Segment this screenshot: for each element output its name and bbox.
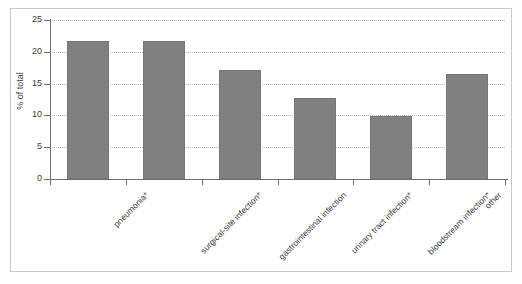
x-axis-tick <box>429 179 430 185</box>
x-axis-tick <box>50 179 51 185</box>
bar <box>219 70 261 179</box>
y-axis-tick-label: 10 <box>14 110 42 119</box>
grid-line <box>50 84 505 85</box>
grid-line <box>50 147 505 148</box>
grid-line <box>50 20 505 21</box>
x-axis-tick <box>353 179 354 185</box>
y-axis-tick-label-wrap: 20 <box>8 47 42 56</box>
y-axis-tick <box>44 84 50 85</box>
y-axis-tick-label: 5 <box>14 142 42 151</box>
y-axis-tick-label: 25 <box>14 15 42 24</box>
bar <box>143 41 185 179</box>
y-axis-tick-label-wrap: 0 <box>8 174 42 183</box>
y-axis-tick-label-wrap: 15 <box>8 79 42 88</box>
x-axis-line <box>44 179 508 180</box>
x-axis-tick <box>278 179 279 185</box>
y-axis-tick-label-wrap: 10 <box>8 110 42 119</box>
bar <box>67 41 109 179</box>
y-axis-tick-label-wrap: 25 <box>8 15 42 24</box>
x-axis-tick <box>202 179 203 185</box>
y-axis-tick <box>44 52 50 53</box>
x-axis-tick <box>505 179 506 185</box>
bar <box>370 116 412 179</box>
bar <box>446 74 488 179</box>
y-axis-tick <box>44 147 50 148</box>
bar <box>294 98 336 179</box>
chart-figure: % of total 0510152025 pneumonia*surgical… <box>0 0 522 284</box>
y-axis-tick-label: 15 <box>14 79 42 88</box>
plot-area <box>50 20 505 179</box>
y-axis-tick-label-wrap: 5 <box>8 142 42 151</box>
y-axis-tick <box>44 115 50 116</box>
y-axis-tick <box>44 20 50 21</box>
grid-line <box>50 115 505 116</box>
y-axis-tick-label: 20 <box>14 47 42 56</box>
grid-line <box>50 52 505 53</box>
x-axis-tick <box>126 179 127 185</box>
y-axis-tick-label: 0 <box>14 174 42 183</box>
y-axis-line <box>50 19 51 180</box>
